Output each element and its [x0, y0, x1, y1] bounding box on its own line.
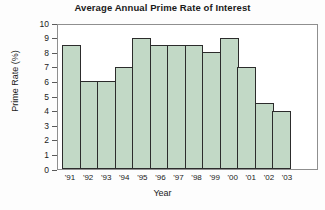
bar	[272, 111, 291, 169]
bar-series	[62, 25, 291, 169]
x-axis-tick-label: '00	[224, 171, 242, 187]
x-axis-label: Year	[0, 188, 325, 198]
x-axis-tick-label: '94	[115, 171, 133, 187]
bar	[202, 52, 221, 169]
y-axis-tick-label: 10	[40, 18, 49, 30]
bar	[237, 67, 256, 169]
y-axis-tick-label: 5	[44, 91, 49, 103]
x-axis: '91'92'93'94'95'96'97'98'99'00'01'02'03	[61, 171, 296, 187]
bar	[220, 38, 239, 169]
bar	[150, 45, 169, 169]
x-axis-tick-label: '02	[260, 171, 278, 187]
y-axis-tick-label: 6	[44, 76, 49, 88]
x-axis-tick-label: '95	[133, 171, 151, 187]
y-axis-tick-label: 8	[44, 47, 49, 59]
y-axis-tick-label: 3	[44, 120, 49, 132]
y-axis-tick-label: 7	[44, 61, 49, 73]
x-axis-tick-label: '03	[278, 171, 296, 187]
x-axis-tick-label: '01	[242, 171, 260, 187]
bar	[185, 45, 204, 169]
y-axis-tick-label: 1	[44, 149, 49, 161]
x-axis-tick-label: '93	[97, 171, 115, 187]
y-axis-tick-label: 2	[44, 134, 49, 146]
bar	[255, 103, 274, 169]
bar	[132, 38, 151, 169]
x-axis-tick-label: '98	[188, 171, 206, 187]
y-axis-tick-label: 9	[44, 32, 49, 44]
bar	[62, 45, 81, 169]
bar	[167, 45, 186, 169]
y-axis-tick-label: 4	[44, 105, 49, 117]
x-axis-tick-label: '99	[206, 171, 224, 187]
bar	[97, 81, 116, 169]
bar	[80, 81, 99, 169]
chart-title: Average Annual Prime Rate of Interest	[0, 2, 325, 13]
chart-figure: Average Annual Prime Rate of Interest Pr…	[0, 0, 325, 210]
plot-area	[57, 24, 318, 170]
y-axis-label: Prime Rate (%)	[10, 21, 20, 141]
bar	[115, 67, 134, 169]
x-axis-tick-label: '91	[61, 171, 79, 187]
y-axis: Prime Rate (%) 012345678910	[0, 24, 57, 170]
y-axis-tick-label: 0	[44, 164, 49, 176]
x-axis-tick-label: '97	[169, 171, 187, 187]
plot-inner	[58, 25, 317, 169]
x-axis-tick-label: '96	[151, 171, 169, 187]
x-axis-tick-label: '92	[79, 171, 97, 187]
